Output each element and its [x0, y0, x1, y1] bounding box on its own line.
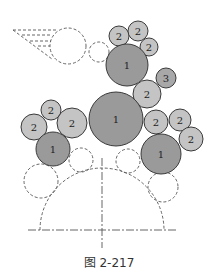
gear-train-diagram: 222132122212221 [0, 0, 218, 250]
gear-2: 2 [109, 26, 129, 46]
gear-label: 2 [188, 134, 194, 145]
dashed-circle [148, 172, 178, 202]
gear-label: 3 [163, 73, 169, 84]
gear-label: 2 [177, 115, 183, 126]
dashed-circle [50, 28, 86, 64]
gear-label: 2 [69, 118, 75, 129]
gear-3: 3 [156, 68, 176, 88]
gears: 222132122212221 [21, 21, 203, 174]
gear-label: 1 [50, 144, 56, 155]
gear-label: 2 [135, 26, 141, 37]
gear-1: 1 [89, 92, 143, 146]
gear-2: 2 [179, 127, 203, 151]
gear-label: 1 [158, 149, 164, 160]
gear-2: 2 [144, 110, 168, 134]
gear-1: 1 [141, 134, 181, 174]
gear-label: 2 [153, 117, 159, 128]
dashed-circle [89, 42, 109, 62]
gear-label: 2 [144, 89, 150, 100]
dashed-circle [116, 149, 140, 173]
gear-label: 2 [146, 42, 152, 53]
gear-2: 2 [128, 21, 148, 41]
gear-label: 2 [48, 105, 54, 116]
gear-1: 1 [106, 44, 148, 86]
gear-label: 1 [113, 114, 119, 125]
dashed-circle [69, 148, 93, 172]
gear-2: 2 [57, 108, 87, 138]
gear-label: 2 [116, 31, 122, 42]
gear-1: 1 [36, 132, 70, 166]
gear-label: 2 [31, 122, 37, 133]
gear-label: 1 [124, 60, 130, 71]
figure-caption: 图 2-217 [0, 253, 218, 270]
